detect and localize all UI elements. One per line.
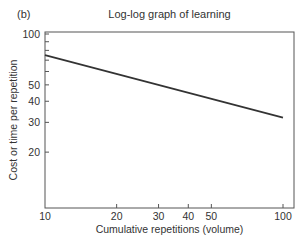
x-tick-label: 30 — [153, 210, 165, 222]
y-tick-label: 100 — [22, 28, 40, 40]
learning-curve-line — [45, 55, 283, 118]
x-tick-label: 20 — [111, 210, 123, 222]
x-tick-label: 10 — [39, 210, 51, 222]
x-tick-label: 100 — [274, 210, 292, 222]
y-tick-label: 30 — [28, 116, 40, 128]
plot-area: 203040501001020304050100 — [0, 0, 308, 247]
x-tick-label: 40 — [182, 210, 194, 222]
y-tick-label: 50 — [28, 79, 40, 91]
y-tick-label: 20 — [28, 146, 40, 158]
x-tick-label: 50 — [206, 210, 218, 222]
plot-frame — [45, 32, 294, 208]
y-tick-label: 40 — [28, 95, 40, 107]
